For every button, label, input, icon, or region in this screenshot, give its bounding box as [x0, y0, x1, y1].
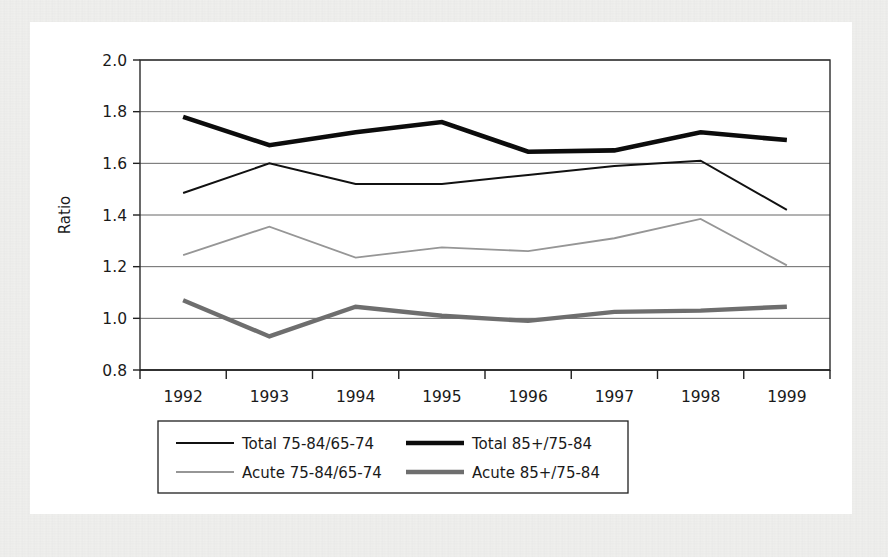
legend-box	[158, 421, 628, 493]
x-tick-label: 1993	[250, 388, 289, 406]
scanned-page: 0.81.01.21.41.61.82.0Ratio19921993199419…	[0, 0, 888, 557]
y-tick-label: 1.8	[102, 103, 127, 121]
y-gridlines: 0.81.01.21.41.61.82.0	[102, 52, 830, 380]
y-tick-label: 2.0	[102, 52, 127, 70]
series-line-1	[183, 117, 787, 152]
chart-svg: 0.81.01.21.41.61.82.0Ratio19921993199419…	[30, 22, 852, 514]
x-tick-label: 1995	[422, 388, 461, 406]
series-line-0	[183, 161, 787, 210]
y-tick-label: 1.0	[102, 310, 127, 328]
line-chart: 0.81.01.21.41.61.82.0Ratio19921993199419…	[30, 22, 852, 514]
x-axis: 19921993199419951996199719981999	[140, 370, 830, 406]
y-tick-label: 1.4	[102, 207, 127, 225]
y-tick-label: 1.2	[102, 258, 127, 276]
x-tick-label: 1994	[336, 388, 375, 406]
x-tick-label: 1997	[595, 388, 634, 406]
y-tick-label: 1.6	[102, 155, 127, 173]
figure-card: 0.81.01.21.41.61.82.0Ratio19921993199419…	[30, 22, 852, 514]
y-axis-title: Ratio	[56, 196, 74, 235]
legend-label-3: Acute 85+/75-84	[472, 464, 600, 482]
x-tick-label: 1996	[508, 388, 547, 406]
y-tick-label: 0.8	[102, 362, 127, 380]
series-line-2	[183, 219, 787, 266]
legend: Total 75-84/65-74Total 85+/75-84Acute 75…	[158, 421, 628, 493]
x-tick-label: 1998	[681, 388, 720, 406]
legend-label-2: Acute 75-84/65-74	[242, 464, 382, 482]
x-tick-label: 1999	[767, 388, 806, 406]
x-tick-label: 1992	[163, 388, 202, 406]
legend-label-0: Total 75-84/65-74	[241, 435, 374, 453]
legend-label-1: Total 85+/75-84	[471, 435, 592, 453]
